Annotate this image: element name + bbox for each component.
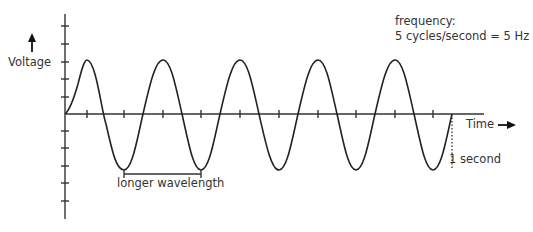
arrow-up-icon — [28, 33, 36, 52]
frequency-title: frequency: — [395, 15, 456, 28]
frequency-value: 5 cycles/second = 5 Hz — [395, 30, 529, 43]
arrow-right-icon — [498, 121, 516, 129]
one-second-label: 1 second — [449, 153, 501, 166]
time-axis — [65, 110, 484, 118]
voltage-axis-label: Voltage — [8, 56, 51, 69]
wavelength-label: longer wavelength — [117, 177, 224, 190]
voltage-axis — [61, 14, 69, 219]
sine-wave — [65, 60, 452, 170]
time-axis-label: Time — [466, 118, 494, 131]
